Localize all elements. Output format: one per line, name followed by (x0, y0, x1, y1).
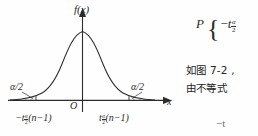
body-text-line-1: 如图 7-2 , (186, 62, 235, 77)
right-tail-area-label: α/2 (131, 82, 144, 92)
body-text-column: P{−tα2 如图 7-2 , 由不等式 −t (178, 0, 258, 136)
left-tail-area-label: α/2 (10, 82, 23, 92)
expression-minus-sign: − (220, 16, 227, 31)
right-critical-value-label: tα2(n−1) (99, 113, 129, 125)
opening-brace: { (207, 20, 219, 38)
figure-page: f(x) x O α/2 α/2 −tα2(n−1) tα2(n−1) P{−t… (0, 0, 258, 136)
right-tick-argument: (n−1) (106, 112, 129, 123)
t-distribution-figure: f(x) x O α/2 α/2 −tα2(n−1) tα2(n−1) (0, 0, 178, 136)
origin-label: O (70, 101, 77, 111)
cutoff-math-fragment: −t (216, 117, 225, 129)
y-axis-label: f(x) (74, 4, 89, 15)
left-critical-value-label: −tα2(n−1) (16, 113, 52, 125)
expression-subscript: α2 (231, 19, 236, 34)
body-text-line-2: 由不等式 (186, 80, 227, 95)
probability-symbol: P (196, 16, 204, 31)
left-tick-argument: (n−1) (28, 112, 51, 123)
probability-expression: P{−tα2 (196, 16, 236, 38)
x-axis-label: x (167, 97, 171, 107)
